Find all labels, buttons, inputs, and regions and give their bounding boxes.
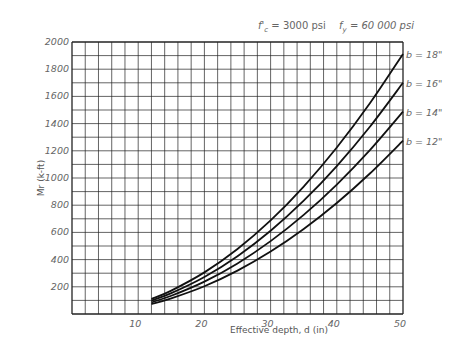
x-tick-label: 10 <box>129 318 141 329</box>
y-tick-label: 1000 <box>45 172 69 183</box>
x-tick-label: 50 <box>394 318 406 329</box>
y-tick-label: 1200 <box>45 145 69 156</box>
y-tick-label: 400 <box>51 254 69 265</box>
curve-b-14 <box>151 112 403 303</box>
curve-label: b = 18" <box>406 49 443 60</box>
curve-b-18 <box>151 54 403 299</box>
x-tick-label: 40 <box>328 318 340 329</box>
chart: 200400600800100012001400160018002000 102… <box>0 0 456 359</box>
y-tick-label: 1800 <box>45 63 69 74</box>
y-tick-label: 800 <box>51 199 69 210</box>
chart-title: f'c = 3000 psi fy = 60 000 psi <box>258 20 414 34</box>
y-axis-ticks: 200400600800100012001400160018002000 <box>45 36 69 292</box>
curve-label: b = 12" <box>406 136 443 147</box>
curve-b-12 <box>151 141 403 304</box>
x-axis-label: Effective depth, d (in) <box>230 325 328 335</box>
curve-labels: b = 18"b = 16"b = 14"b = 12" <box>406 49 443 147</box>
curves <box>151 54 403 304</box>
curve-label: b = 16" <box>406 78 443 89</box>
y-tick-label: 1400 <box>45 118 69 129</box>
curve-label: b = 14" <box>406 107 443 118</box>
grid <box>72 42 403 314</box>
y-tick-label: 200 <box>51 281 69 292</box>
y-tick-label: 1600 <box>45 90 69 101</box>
x-tick-label: 20 <box>195 318 207 329</box>
y-axis-label: Mr (k-ft) <box>36 160 46 196</box>
y-tick-label: 600 <box>51 226 69 237</box>
y-tick-label: 2000 <box>45 36 69 47</box>
